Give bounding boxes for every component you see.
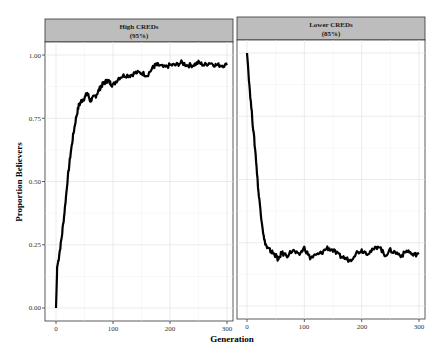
strip-title-1: High CREDs xyxy=(119,23,158,31)
x-tick-100: 100 xyxy=(108,325,119,333)
faceted-line-chart: High CREDs (95%) Lower CREDs (85%) 0.00 … xyxy=(0,0,444,356)
y-tick-075: 0.75 xyxy=(29,115,42,123)
x-tick-0: 0 xyxy=(54,325,58,333)
x-tick-200: 200 xyxy=(165,325,176,333)
y-tick-050: 0.50 xyxy=(29,178,42,186)
x-tick-100: 100 xyxy=(299,323,310,331)
strip-title-2: Lower CREDs xyxy=(309,21,353,29)
strip-subtitle-1: (95%) xyxy=(130,32,149,40)
panel-high-creds: High CREDs (95%) xyxy=(45,19,233,321)
strip-subtitle-2: (85%) xyxy=(322,30,341,38)
y-tick-0: 0.00 xyxy=(29,304,42,312)
x-tick-300: 300 xyxy=(222,325,233,333)
x-tick-0: 0 xyxy=(245,323,249,331)
panel-lower-creds: Lower CREDs (85%) xyxy=(237,17,425,319)
x-axis-2: 0 100 200 300 xyxy=(245,323,425,331)
y-axis: 0.00 0.25 0.50 0.75 1.00 xyxy=(29,52,45,312)
x-tick-300: 300 xyxy=(414,323,425,331)
y-tick-025: 0.25 xyxy=(29,241,42,249)
y-axis-label: Proportion Believers xyxy=(14,142,24,222)
y-tick-100: 1.00 xyxy=(29,52,42,60)
x-axis-label: Generation xyxy=(210,334,254,344)
x-axis-1: 0 100 200 300 xyxy=(54,325,233,333)
x-tick-200: 200 xyxy=(357,323,368,331)
